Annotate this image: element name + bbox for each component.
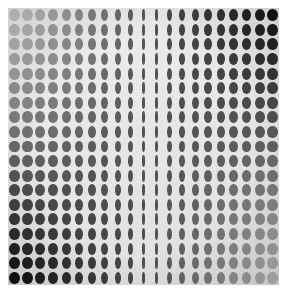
lattice-dot [48, 199, 58, 211]
lattice-dot [142, 68, 146, 80]
lattice-dot [179, 97, 185, 109]
lattice-dot [242, 199, 251, 211]
lattice-dot [217, 170, 225, 182]
lattice-dot [267, 272, 277, 284]
lattice-dot [155, 97, 158, 109]
lattice-dot [155, 68, 158, 80]
lattice-dot [101, 24, 108, 36]
lattice-dot [217, 111, 225, 123]
lattice-dot [267, 53, 277, 65]
lattice-dot [142, 97, 146, 109]
lattice-dot [267, 228, 277, 240]
lattice-dot [179, 24, 185, 36]
lattice-dot [22, 38, 32, 50]
lattice-dot [179, 199, 185, 211]
lattice-dot [229, 24, 238, 36]
lattice-dot [217, 53, 225, 65]
lattice-dot [101, 53, 108, 65]
lattice-dot [35, 126, 45, 138]
lattice-dot [229, 199, 238, 211]
lattice-dot [62, 170, 71, 182]
lattice-dot [255, 24, 265, 36]
lattice-dot [142, 184, 146, 196]
lattice-dot [267, 257, 277, 269]
lattice-dot [229, 155, 238, 167]
lattice-dot [204, 155, 212, 167]
lattice-dot [48, 68, 58, 80]
lattice-dot [179, 213, 185, 225]
lattice-dot [204, 82, 212, 94]
lattice-dot [35, 111, 45, 123]
lattice-dot [204, 184, 212, 196]
lattice-dot [192, 9, 199, 21]
lattice-dot [35, 53, 45, 65]
lattice-dot [48, 141, 58, 153]
lattice-dot [142, 111, 146, 123]
lattice-dot [75, 257, 83, 269]
lattice-dot [128, 184, 133, 196]
lattice-dot [88, 170, 96, 182]
lattice-dot [267, 24, 277, 36]
lattice-dot [9, 82, 19, 94]
lattice-dot [9, 199, 19, 211]
lattice-dot [217, 24, 225, 36]
lattice-dot [115, 38, 121, 50]
lattice-dot [75, 155, 83, 167]
lattice-dot [267, 199, 277, 211]
lattice-dot [9, 170, 19, 182]
lattice-dot [115, 199, 121, 211]
lattice-dot [35, 184, 45, 196]
lattice-dot [167, 82, 172, 94]
lattice-dot [155, 257, 158, 269]
lattice-dot [35, 155, 45, 167]
lattice-dot [88, 97, 96, 109]
lattice-dot [204, 111, 212, 123]
lattice-dot [255, 257, 265, 269]
lattice-dot [167, 170, 172, 182]
lattice-dot [101, 228, 108, 240]
lattice-dot [142, 155, 146, 167]
lattice-dot [101, 111, 108, 123]
lattice-dot [167, 213, 172, 225]
lattice-dot [62, 199, 71, 211]
lattice-dot [22, 184, 32, 196]
lattice-dot [217, 141, 225, 153]
lattice-dot [62, 126, 71, 138]
lattice-dot [88, 141, 96, 153]
lattice-dot [22, 68, 32, 80]
lattice-dot [179, 243, 185, 255]
lattice-dot [229, 97, 238, 109]
lattice-dot [155, 38, 158, 50]
lattice-dot [22, 9, 32, 21]
lattice-dot [192, 82, 199, 94]
lattice-dot [128, 53, 133, 65]
lattice-dot [88, 184, 96, 196]
lattice-dot [167, 126, 172, 138]
lattice-dot [242, 213, 251, 225]
lattice-dot [115, 184, 121, 196]
lattice-dot [48, 82, 58, 94]
lattice-dot [217, 228, 225, 240]
lattice-dot [204, 9, 212, 21]
lattice-dot [48, 111, 58, 123]
lattice-dot [128, 9, 133, 21]
lattice-dot [22, 155, 32, 167]
lattice-dot [267, 141, 277, 153]
lattice-dot [9, 155, 19, 167]
lattice-dot [255, 9, 265, 21]
lattice-dot [88, 53, 96, 65]
lattice-dot [255, 213, 265, 225]
lattice-dot [192, 257, 199, 269]
lattice-dot [75, 97, 83, 109]
lattice-dot [62, 243, 71, 255]
lattice-dot [22, 170, 32, 182]
lattice-dot [155, 53, 158, 65]
lattice-dot [217, 68, 225, 80]
lattice-dot [155, 155, 158, 167]
lattice-dot [62, 272, 71, 284]
lattice-dot [179, 141, 185, 153]
lattice-dot [35, 82, 45, 94]
lattice-dot [101, 155, 108, 167]
lattice-dot [267, 243, 277, 255]
lattice-dot [255, 53, 265, 65]
